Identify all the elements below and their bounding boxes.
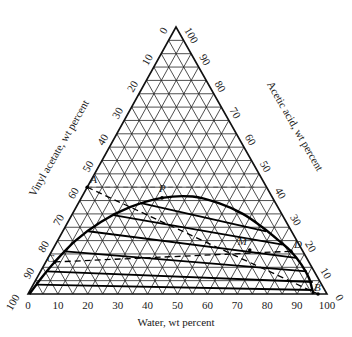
tie-lines [36,203,313,290]
tick-water: 80 [262,299,274,311]
tick-vinyl-acetate: 40 [95,131,111,147]
tick-water: 60 [202,299,214,311]
tick-vinyl-acetate: 20 [124,78,140,94]
grid-line [252,227,289,294]
tick-labels: 0102030405060708090100100908070605040302… [3,25,347,313]
axis-title-water: Water, wt percent [137,316,214,328]
point-label-c: C [47,252,55,264]
point-label-d: D [293,238,302,250]
ternary-diagram: APMDCB 010203040506070809010010090807060… [0,0,352,337]
point-label-m: M [237,235,248,247]
tick-water: 30 [112,299,124,311]
tick-acetic-acid: 70 [228,105,244,121]
tick-acetic-acid: 20 [303,239,319,255]
tick-vinyl-acetate: 30 [109,105,125,121]
tick-acetic-acid: 90 [197,52,213,68]
tick-water: 0 [25,299,31,311]
tick-water: 100 [319,299,336,311]
point-marker [289,249,293,253]
grid-line [163,147,244,294]
point-label-a: A [89,173,97,185]
tick-water: 10 [52,299,64,311]
tick-acetic-acid: 30 [288,212,304,228]
tick-acetic-acid: 80 [212,78,228,94]
tick-vinyl-acetate: 0 [157,25,170,36]
tick-vinyl-acetate: 70 [50,211,66,227]
tick-vinyl-acetate: 90 [21,265,37,281]
grid-line [80,201,133,294]
tick-vinyl-acetate: 100 [3,292,22,313]
tick-acetic-acid: 50 [258,159,274,175]
axis-title-vinyl-acetate: Vinyl acetate, wt percent [26,98,91,199]
grid-line [133,120,229,294]
point-marker [248,248,252,252]
tick-water: 20 [82,299,94,311]
tick-acetic-acid: 0 [333,292,346,303]
tick-vinyl-acetate: 50 [80,158,96,174]
tick-water: 90 [292,299,304,311]
point-label-p: P [158,182,166,194]
point-marker [160,196,164,200]
axis-title-acetic-acid: Acetic acid, wt percent [265,79,326,173]
ternary-chart-svg: APMDCB 010203040506070809010010090807060… [0,0,352,337]
tick-vinyl-acetate: 10 [139,51,155,67]
tick-water: 40 [142,299,154,311]
point-label-b: B [314,281,321,293]
tick-acetic-acid: 10 [318,265,334,281]
tick-acetic-acid: 60 [243,132,259,148]
grid-line [124,120,222,294]
grid-line [109,147,192,294]
tick-water: 70 [232,299,244,311]
tick-vinyl-acetate: 60 [65,185,81,201]
tick-water: 50 [172,299,184,311]
tick-acetic-acid: 40 [273,185,289,201]
point-marker [85,185,89,189]
grid-line [139,94,252,294]
